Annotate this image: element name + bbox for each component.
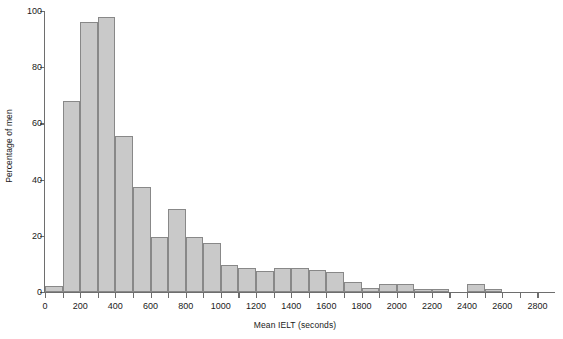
- histogram-bar: [256, 271, 274, 292]
- histogram-bar: [485, 289, 503, 292]
- x-axis-tick: [449, 293, 450, 298]
- histogram-bar: [274, 268, 292, 292]
- x-axis-tick: [274, 293, 275, 298]
- x-axis-tick-label: 2600: [492, 301, 512, 311]
- x-axis-tick: [168, 293, 169, 298]
- histogram-bar: [467, 284, 485, 292]
- x-axis-tick: [432, 293, 433, 298]
- x-axis-tick: [115, 293, 116, 298]
- plot-area: 020406080100 020040060080010001200140016…: [45, 11, 555, 292]
- histogram-bar: [326, 272, 344, 292]
- histogram-bar: [344, 282, 362, 292]
- histogram-bar: [186, 237, 204, 292]
- x-axis-tick: [467, 293, 468, 298]
- x-axis-tick: [379, 293, 380, 298]
- x-axis-tick-label: 2000: [387, 301, 407, 311]
- x-axis-tick: [309, 293, 310, 298]
- x-axis-tick: [362, 293, 363, 298]
- x-axis-tick: [45, 293, 46, 298]
- histogram-bar: [291, 268, 309, 292]
- y-axis-tick-label: 0: [37, 287, 42, 297]
- histogram-bar: [98, 17, 116, 292]
- x-axis-tick: [537, 293, 538, 298]
- x-axis-tick: [80, 293, 81, 298]
- histogram-bar: [362, 288, 380, 292]
- histogram-bar: [397, 284, 415, 292]
- x-axis-tick: [186, 293, 187, 298]
- histogram-bar: [432, 289, 450, 292]
- x-axis-tick-label: 600: [143, 301, 158, 311]
- x-axis-tick: [98, 293, 99, 298]
- x-axis-tick-label: 2200: [422, 301, 442, 311]
- x-axis-tick: [221, 293, 222, 298]
- x-axis-tick: [63, 293, 64, 298]
- y-axis-title: Percentage of men: [2, 0, 16, 292]
- x-axis-tick-label: 1000: [211, 301, 231, 311]
- x-axis-tick-label: 800: [178, 301, 193, 311]
- histogram-bar: [133, 187, 151, 292]
- histogram-bar: [379, 284, 397, 292]
- y-axis-spine: [44, 11, 45, 292]
- x-axis-tick: [520, 293, 521, 298]
- histogram-bar: [168, 209, 186, 292]
- histogram-bar: [309, 270, 327, 292]
- x-axis-tick: [291, 293, 292, 298]
- x-axis-tick: [344, 293, 345, 298]
- x-axis-tick: [203, 293, 204, 298]
- x-axis-tick: [256, 293, 257, 298]
- x-axis-tick: [485, 293, 486, 298]
- x-axis-spine: [44, 292, 555, 293]
- x-axis-tick-label: 2800: [527, 301, 547, 311]
- x-axis-tick: [414, 293, 415, 298]
- y-axis-tick-label: 20: [32, 231, 42, 241]
- y-axis-tick-label: 60: [32, 118, 42, 128]
- histogram-bar: [221, 265, 239, 292]
- x-axis-tick: [151, 293, 152, 298]
- histogram-figure: Percentage of men Mean IELT (seconds) 02…: [0, 0, 563, 339]
- histogram-bar: [151, 237, 169, 292]
- x-axis-title: Mean IELT (seconds): [45, 320, 545, 330]
- y-axis-tick-label: 40: [32, 175, 42, 185]
- x-axis-tick: [397, 293, 398, 298]
- histogram-bar: [45, 286, 63, 292]
- x-axis-tick-label: 200: [73, 301, 88, 311]
- x-axis-tick-label: 1600: [316, 301, 336, 311]
- x-axis-tick-label: 400: [108, 301, 123, 311]
- x-axis-tick-label: 2400: [457, 301, 477, 311]
- histogram-bar: [80, 22, 98, 292]
- x-axis-tick-label: 1400: [281, 301, 301, 311]
- y-axis-tick-label: 100: [27, 6, 42, 16]
- x-axis-tick: [238, 293, 239, 298]
- histogram-bar: [238, 268, 256, 292]
- histogram-bar: [203, 243, 221, 292]
- histogram-bar: [63, 101, 81, 292]
- x-axis-tick-label: 0: [42, 301, 47, 311]
- x-axis-tick: [502, 293, 503, 298]
- x-axis-tick: [326, 293, 327, 298]
- x-axis-tick-label: 1800: [352, 301, 372, 311]
- x-axis-tick: [133, 293, 134, 298]
- histogram-bar: [414, 289, 432, 292]
- x-axis-tick-label: 1200: [246, 301, 266, 311]
- y-axis-tick-label: 80: [32, 62, 42, 72]
- histogram-bar: [115, 136, 133, 292]
